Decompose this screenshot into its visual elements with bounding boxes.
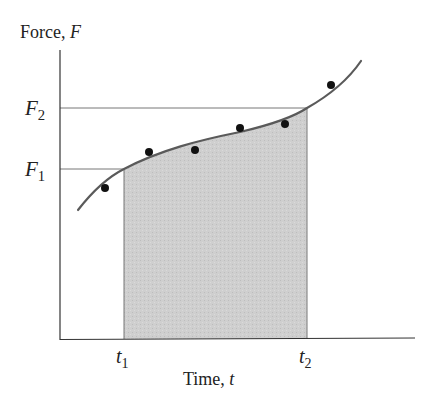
f1-tick-label: F1 [25,157,45,185]
t2-tick-label: t2 [299,345,312,372]
t2-subscript: 2 [305,356,312,371]
y-axis-label-var: F [70,22,81,42]
f2-tick-label: F2 [25,96,45,124]
x-axis-label: Time, t [183,369,234,390]
f2-symbol: F [25,96,38,120]
f1-symbol: F [25,157,38,181]
y-axis-label: Force, F [20,22,81,43]
f1-subscript: 1 [38,168,45,184]
force-time-diagram [0,0,440,404]
t1-subscript: 1 [122,356,129,371]
t1-tick-label: t1 [116,345,129,372]
x-axis-label-text: Time, [183,369,229,389]
y-axis-label-text: Force, [20,22,70,42]
x-axis [60,338,415,340]
impulse-shaded-area [124,108,307,339]
x-axis-label-var: t [229,369,234,389]
f2-subscript: 2 [38,107,45,123]
